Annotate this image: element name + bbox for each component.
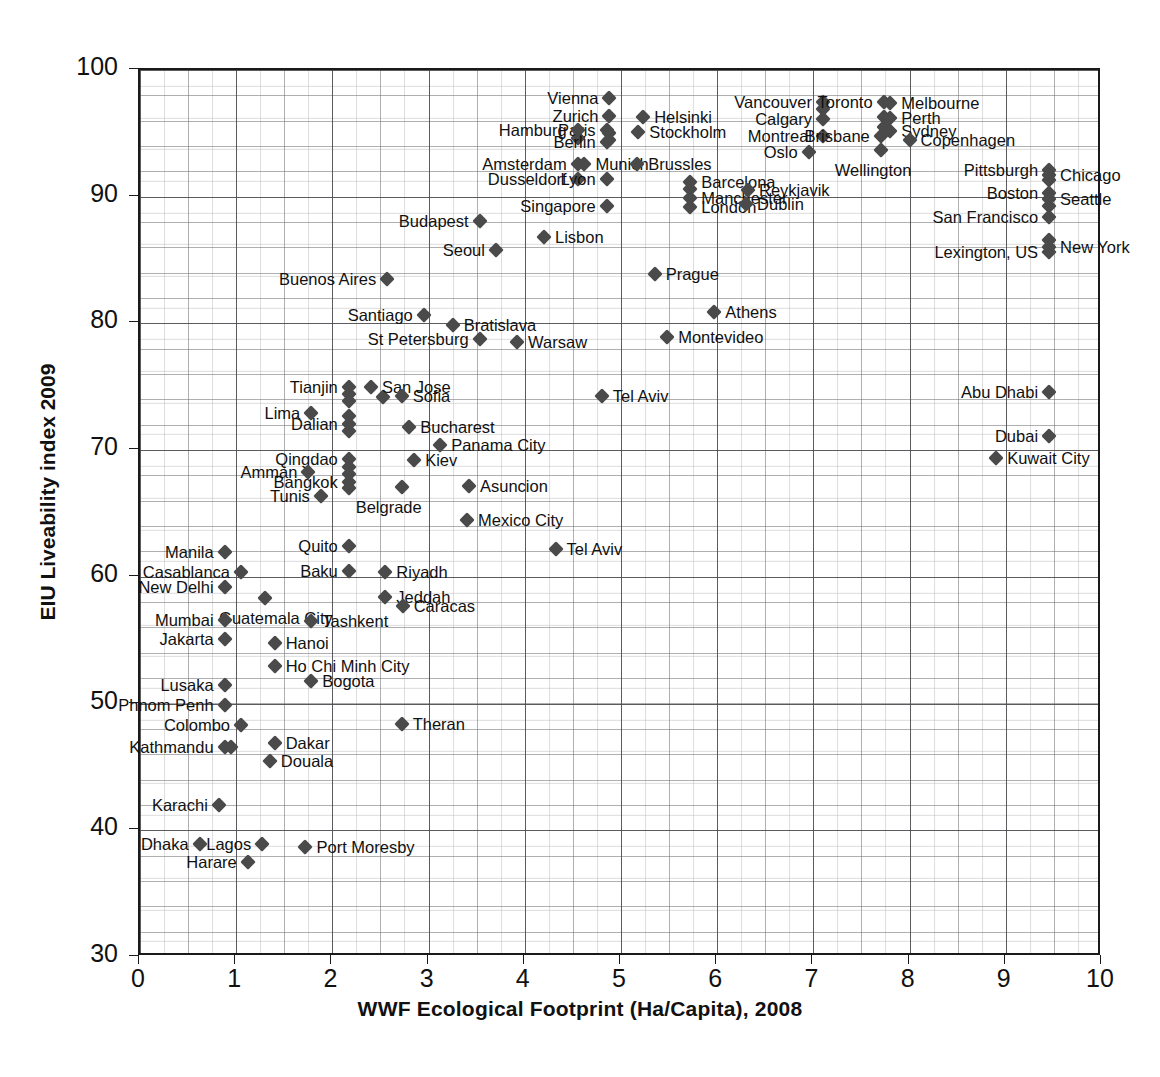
point-label: Seattle: [1060, 190, 1111, 209]
point-label: Dusseldorf: [488, 169, 567, 188]
x-tick: [523, 955, 524, 964]
data-point[interactable]: [267, 658, 283, 674]
point-label: Belgrade: [356, 497, 422, 516]
data-point[interactable]: [459, 512, 475, 528]
data-point[interactable]: [303, 673, 319, 689]
data-point[interactable]: [217, 677, 233, 693]
data-point[interactable]: [262, 753, 278, 769]
y-tick: [129, 448, 138, 449]
data-point[interactable]: [406, 452, 422, 468]
data-point[interactable]: [873, 142, 889, 158]
data-point[interactable]: [233, 717, 249, 733]
data-point[interactable]: [815, 112, 831, 128]
y-tick-label: 100: [48, 52, 118, 81]
y-tick: [129, 575, 138, 576]
point-label: Theran: [413, 714, 465, 733]
data-point[interactable]: [257, 591, 273, 607]
point-label: Sofia: [413, 386, 451, 405]
x-tick-label: 4: [493, 964, 553, 993]
point-label: Tel Aviv: [613, 386, 669, 405]
point-label: New York: [1060, 238, 1130, 257]
y-tick: [129, 68, 138, 69]
data-point[interactable]: [461, 478, 477, 494]
data-point[interactable]: [1041, 428, 1057, 444]
data-point[interactable]: [267, 735, 283, 751]
point-label: Kuwait City: [1007, 448, 1090, 467]
data-point[interactable]: [1041, 384, 1057, 400]
data-point[interactable]: [341, 539, 357, 555]
data-point[interactable]: [217, 631, 233, 647]
x-tick: [715, 955, 716, 964]
data-point[interactable]: [548, 541, 564, 557]
data-point[interactable]: [707, 304, 723, 320]
point-label: Bogota: [322, 671, 374, 690]
point-label: Karachi: [152, 795, 208, 814]
point-label: Lexington, US: [934, 243, 1038, 262]
data-point[interactable]: [594, 388, 610, 404]
point-label: Oslo: [764, 143, 798, 162]
point-label: Tashkent: [322, 612, 388, 631]
x-tick-label: 2: [300, 964, 360, 993]
data-point[interactable]: [536, 229, 552, 245]
data-point[interactable]: [378, 564, 394, 580]
data-point[interactable]: [659, 330, 675, 346]
data-point[interactable]: [192, 836, 208, 852]
data-point[interactable]: [488, 242, 504, 258]
point-label: Prague: [666, 265, 719, 284]
data-point[interactable]: [647, 266, 663, 282]
point-label: Port Moresby: [316, 837, 414, 856]
data-point[interactable]: [217, 579, 233, 595]
data-point[interactable]: [988, 450, 1004, 466]
data-point[interactable]: [233, 564, 249, 580]
point-label: Brussles: [648, 154, 711, 173]
data-point[interactable]: [341, 563, 357, 579]
point-label: Bucharest: [420, 418, 494, 437]
data-point[interactable]: [217, 697, 233, 713]
x-axis-title: WWF Ecological Footprint (Ha/Capita), 20…: [0, 997, 1160, 1021]
x-tick-label: 5: [589, 964, 649, 993]
data-point[interactable]: [416, 307, 432, 323]
point-label: Phnom Penh: [118, 695, 213, 714]
data-point[interactable]: [217, 544, 233, 560]
point-label: Tel Aviv: [567, 539, 623, 558]
x-tick: [811, 955, 812, 964]
data-point[interactable]: [801, 145, 817, 161]
data-point[interactable]: [211, 797, 227, 813]
point-label: Bratislava: [464, 315, 536, 334]
data-point[interactable]: [378, 589, 394, 605]
data-point[interactable]: [599, 171, 615, 187]
data-point[interactable]: [599, 198, 615, 214]
data-point[interactable]: [298, 839, 314, 855]
point-label: Hanoi: [286, 633, 329, 652]
data-point[interactable]: [363, 379, 379, 395]
point-label: Panama City: [451, 436, 545, 455]
data-point[interactable]: [254, 836, 270, 852]
data-point[interactable]: [267, 635, 283, 651]
data-point[interactable]: [402, 420, 418, 436]
y-tick-label: 30: [48, 939, 118, 968]
data-point[interactable]: [602, 90, 618, 106]
point-label: Douala: [281, 751, 333, 770]
point-label: Abu Dhabi: [961, 382, 1038, 401]
grid-major: [140, 70, 1098, 953]
data-point[interactable]: [240, 854, 256, 870]
data-point[interactable]: [602, 108, 618, 124]
point-label: Dakar: [286, 733, 330, 752]
data-point[interactable]: [394, 716, 410, 732]
data-point[interactable]: [631, 124, 647, 140]
x-tick: [619, 955, 620, 964]
data-point[interactable]: [379, 271, 395, 287]
data-point[interactable]: [472, 213, 488, 229]
point-label: Athens: [725, 303, 776, 322]
point-label: Lisbon: [555, 228, 604, 247]
y-tick-label: 40: [48, 812, 118, 841]
point-label: Kathmandu: [129, 737, 213, 756]
data-point[interactable]: [509, 335, 525, 351]
data-point[interactable]: [1041, 209, 1057, 225]
data-point[interactable]: [394, 479, 410, 495]
point-label: Toronto: [818, 92, 873, 111]
point-label: Lusaka: [160, 675, 213, 694]
grid-minor: [140, 70, 1098, 953]
point-label: Asuncion: [480, 476, 548, 495]
point-label: Jakarta: [160, 629, 214, 648]
